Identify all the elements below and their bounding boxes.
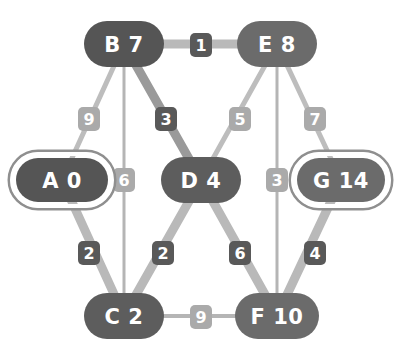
- edge-weight-label-d-f: 6: [229, 241, 251, 265]
- graph-canvas: 193657322649 A 0B 7C 2D 4E 8F 10G 14: [0, 0, 399, 353]
- graph-node-e[interactable]: E 8: [237, 21, 317, 67]
- edge-weight-value: 9: [83, 110, 94, 129]
- node-label-a: A 0: [42, 169, 82, 193]
- node-label-g: G 14: [313, 169, 369, 193]
- edge-weight-label-f-g: 4: [304, 241, 326, 265]
- node-label-e: E 8: [258, 33, 296, 57]
- graph-node-b[interactable]: B 7: [84, 21, 164, 67]
- edge-weight-label-b-d: 3: [155, 107, 177, 131]
- edge-weight-label-e-g: 7: [304, 107, 326, 131]
- graph-node-d[interactable]: D 4: [161, 157, 241, 203]
- edge-weight-value: 3: [160, 110, 171, 129]
- edge-weight-label-c-f: 9: [190, 305, 212, 329]
- edge-weight-value: 2: [157, 244, 168, 263]
- nodes-layer: A 0B 7C 2D 4E 8F 10G 14: [9, 21, 392, 339]
- edge-weight-value: 7: [309, 110, 320, 129]
- graph-node-c[interactable]: C 2: [84, 293, 164, 339]
- graph-node-g[interactable]: G 14: [290, 151, 392, 209]
- edge-weight-value: 6: [118, 171, 129, 190]
- node-label-c: C 2: [105, 305, 144, 329]
- edge-weight-value: 4: [309, 244, 320, 263]
- node-label-f: F 10: [251, 305, 304, 329]
- edge-weight-label-d-e: 5: [229, 107, 251, 131]
- graph-node-f[interactable]: F 10: [235, 293, 319, 339]
- edge-weight-value: 1: [195, 36, 206, 55]
- edge-weight-label-a-b: 9: [78, 107, 100, 131]
- node-label-b: B 7: [104, 33, 143, 57]
- edge-weight-label-e-f: 3: [266, 168, 288, 192]
- edge-weight-value: 5: [234, 110, 245, 129]
- edge-weight-value: 9: [195, 308, 206, 327]
- edge-weight-label-a-c: 2: [78, 241, 100, 265]
- graph-node-a[interactable]: A 0: [9, 151, 115, 209]
- edge-weight-label-b-e: 1: [190, 33, 212, 57]
- edge-weight-value: 3: [271, 171, 282, 190]
- edge-weight-label-c-d: 2: [152, 241, 174, 265]
- graph-diagram: 193657322649 A 0B 7C 2D 4E 8F 10G 14: [0, 0, 399, 353]
- node-label-d: D 4: [181, 169, 222, 193]
- edge-weight-value: 6: [234, 244, 245, 263]
- edge-weight-value: 2: [83, 244, 94, 263]
